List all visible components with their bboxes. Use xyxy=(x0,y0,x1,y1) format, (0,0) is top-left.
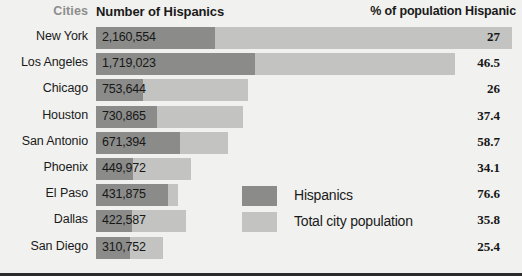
chart-row: Los Angeles1,719,02346.5 xyxy=(0,53,522,75)
legend-label-hispanics: Hispanics xyxy=(294,187,353,203)
percent-hispanic-value: 25.4 xyxy=(477,239,500,255)
hispanic-population-chart: Cities Number of Hispanics % of populati… xyxy=(0,0,522,276)
percent-hispanic-value: 76.6 xyxy=(477,186,500,202)
chart-row: San Diego310,75225.4 xyxy=(0,237,522,259)
legend-item-total-city-population: Total city population xyxy=(242,212,472,235)
legend-swatch-hispanics-icon xyxy=(242,186,277,206)
percent-hispanic-value: 35.8 xyxy=(477,212,500,228)
percent-hispanic-value: 27 xyxy=(487,29,500,45)
hispanic-count-value: 753,644 xyxy=(102,82,146,96)
column-header-percent-population-hispanic: % of population Hispanic xyxy=(370,4,516,18)
bar-track xyxy=(96,27,512,49)
chart-row: New York2,160,55427 xyxy=(0,27,522,49)
percent-hispanic-value: 26 xyxy=(487,81,500,97)
legend-label-total-city-population: Total city population xyxy=(294,213,413,229)
chart-row: Phoenix449,97234.1 xyxy=(0,158,522,180)
percent-hispanic-value: 58.7 xyxy=(477,134,500,150)
chart-row: Chicago753,64426 xyxy=(0,79,522,101)
percent-hispanic-value: 37.4 xyxy=(477,108,500,124)
hispanic-count-value: 671,394 xyxy=(102,135,146,149)
hispanic-count-value: 1,719,023 xyxy=(102,56,156,70)
city-label: San Diego xyxy=(0,239,88,253)
chart-row: Houston730,86537.4 xyxy=(0,106,522,128)
city-label: Houston xyxy=(0,108,88,122)
chart-header: Cities Number of Hispanics % of populati… xyxy=(0,4,522,24)
city-label: El Paso xyxy=(0,186,88,200)
chart-row: San Antonio671,39458.7 xyxy=(0,132,522,154)
hispanic-count-value: 431,875 xyxy=(102,187,146,201)
hispanic-count-value: 310,752 xyxy=(102,240,146,254)
chart-legend: Hispanics Total city population xyxy=(242,186,472,238)
legend-item-hispanics: Hispanics xyxy=(242,186,472,209)
legend-swatch-total-population-icon xyxy=(242,212,277,232)
city-label: Phoenix xyxy=(0,160,88,174)
hispanic-count-value: 422,587 xyxy=(102,213,146,227)
city-label: Dallas xyxy=(0,212,88,226)
city-label: New York xyxy=(0,29,88,43)
city-label: Los Angeles xyxy=(0,55,88,69)
column-header-cities: Cities xyxy=(0,4,88,18)
percent-hispanic-value: 46.5 xyxy=(477,55,500,71)
percent-hispanic-value: 34.1 xyxy=(477,160,500,176)
hispanic-count-value: 2,160,554 xyxy=(102,30,156,44)
city-label: Chicago xyxy=(0,81,88,95)
column-header-number-of-hispanics: Number of Hispanics xyxy=(96,4,224,19)
hispanic-count-value: 730,865 xyxy=(102,109,146,123)
city-label: San Antonio xyxy=(0,134,88,148)
hispanic-count-value: 449,972 xyxy=(102,161,146,175)
